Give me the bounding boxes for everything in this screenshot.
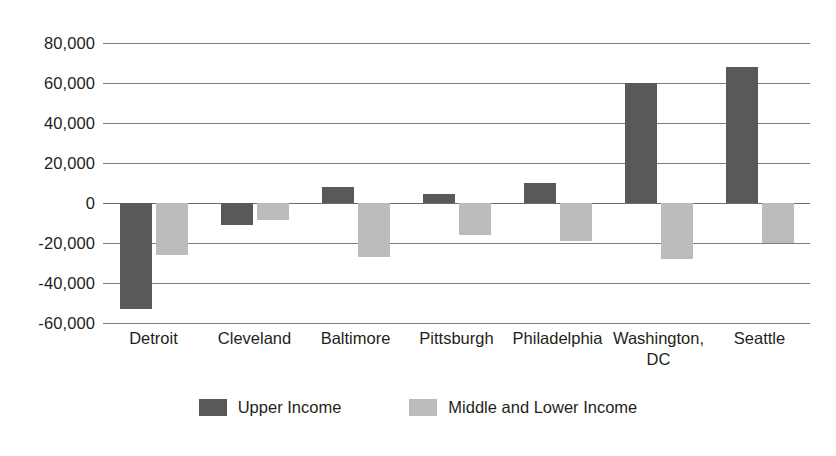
x-axis-tick-label-line: Baltimore [305,328,406,349]
y-axis-tick-label: 20,000 [44,154,95,173]
x-axis-tick-label: Philadelphia [507,328,608,349]
legend-swatch-icon [199,399,227,416]
bar-group [103,43,204,323]
bar [524,183,556,203]
x-axis-tick-label-line: DC [608,349,709,370]
y-axis-tick-label: 80,000 [44,34,95,53]
legend-label: Upper Income [238,398,342,417]
x-axis-tick-label-line: Philadelphia [507,328,608,349]
bar [120,203,152,309]
chart-legend: Upper IncomeMiddle and Lower Income [0,398,836,428]
legend-label: Middle and Lower Income [448,398,637,417]
bar [156,203,188,255]
x-axis-tick-label: Cleveland [204,328,305,349]
x-axis-tick-label: Pittsburgh [406,328,507,349]
legend-item: Upper Income [199,398,342,417]
bar-chart: 80,00060,00040,00020,0000-20,000-40,000-… [0,0,836,456]
bar [221,203,253,225]
x-axis-tick-label: Washington,DC [608,328,709,370]
x-axis-tick-label: Detroit [103,328,204,349]
x-axis-tick-label: Baltimore [305,328,406,349]
bar-group [608,43,709,323]
gridline [103,323,810,324]
bar [423,194,455,203]
legend-item: Middle and Lower Income [409,398,637,417]
bar [322,187,354,203]
x-axis-labels: DetroitClevelandBaltimorePittsburghPhila… [103,328,810,388]
bar-group [406,43,507,323]
bar [560,203,592,241]
bar [762,203,794,243]
x-axis-tick-label-line: Detroit [103,328,204,349]
bar [257,203,289,220]
bar-group [507,43,608,323]
y-axis-tick-label: 40,000 [44,114,95,133]
y-axis-tick-label: 0 [86,194,95,213]
bar [661,203,693,259]
y-axis-tick-label: -60,000 [38,314,95,333]
x-axis-tick-label-line: Washington, [608,328,709,349]
y-axis-tick-label: -40,000 [38,274,95,293]
y-axis-labels: 80,00060,00040,00020,0000-20,000-40,000-… [0,43,95,323]
bar-group [204,43,305,323]
bar [459,203,491,235]
bar-group [709,43,810,323]
x-axis-tick-label-line: Pittsburgh [406,328,507,349]
y-axis-tick-label: 60,000 [44,74,95,93]
y-axis-tick-label: -20,000 [38,234,95,253]
bar-group [305,43,406,323]
legend-swatch-icon [409,399,437,416]
bar [358,203,390,257]
x-axis-tick-label-line: Seattle [709,328,810,349]
bars-layer [103,43,810,323]
x-axis-tick-label-line: Cleveland [204,328,305,349]
x-axis-tick-label: Seattle [709,328,810,349]
bar [625,83,657,203]
bar [726,67,758,203]
